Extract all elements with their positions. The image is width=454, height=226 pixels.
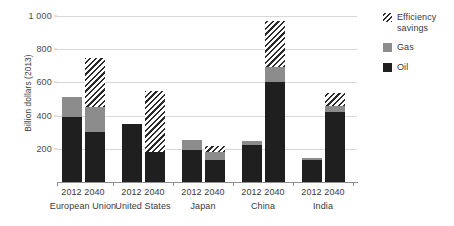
x-group-label: Japan [190,201,215,211]
x-tick-mark [173,182,174,186]
bar-india-2012 [302,158,322,182]
chart-legend: Efficiency savingsGasOil [383,12,454,82]
bar-india-2040 [325,93,345,182]
y-tick-mark [54,148,57,149]
bar-united-states-2012 [122,124,142,182]
x-year-label: 2040 [324,187,344,197]
bar-segment-gas [265,67,285,82]
y-tick-label: 400 [36,111,52,121]
bar-european-union-2040 [85,58,105,183]
bar-segment-efficiency-savings [205,146,225,153]
bar-segment-gas [302,158,322,160]
bar-japan-2012 [182,140,202,182]
grid-line [57,16,357,17]
x-tick-mark [113,182,114,186]
bar-segment-oil [242,145,262,182]
bar-segment-oil [145,152,165,182]
x-group-label: India [313,201,333,211]
bar-segment-gas [242,141,262,145]
y-tick-label: 1 000 [28,11,52,21]
x-year-label: 2012 [61,187,81,197]
plot-area: 1 000800600400200 [57,16,357,182]
x-year-label: 2012 [241,187,261,197]
x-year-label: 2012 [121,187,141,197]
y-tick-mark [54,16,57,17]
legend-swatch-gas-icon [383,43,392,52]
y-tick-label: 200 [36,144,52,154]
x-year-label: 2012 [181,187,201,197]
legend-label: Oil [397,62,454,73]
legend-item: Gas [383,42,454,53]
bar-segment-gas [205,152,225,160]
y-axis-title: Billion dollars (2013) [23,13,33,173]
legend-swatch-oil-icon [383,63,392,72]
x-tick-mark [233,182,234,186]
bar-segment-oil [205,160,225,182]
bar-segment-oil [85,132,105,182]
bar-china-2012 [242,141,262,183]
x-year-label: 2040 [264,187,284,197]
bar-segment-oil [182,150,202,182]
bar-segment-efficiency-savings [85,58,105,108]
bar-segment-gas [182,140,202,150]
x-year-label: 2040 [84,187,104,197]
grid-line [57,49,357,50]
bar-segment-oil [122,124,142,182]
x-group-label: United States [115,201,170,211]
y-tick-label: 800 [36,44,52,54]
bar-japan-2040 [205,145,225,182]
stacked-bar-chart: Billion dollars (2013) 1 000800600400200… [0,0,454,226]
bar-segment-gas [85,107,105,132]
bar-segment-efficiency-savings [325,93,345,105]
bar-segment-oil [302,160,322,182]
y-tick-label: 600 [36,77,52,87]
bar-segment-oil [325,112,345,182]
x-axis-line [57,182,358,183]
legend-item: Oil [383,62,454,73]
x-tick-mark [57,182,58,186]
legend-label: Gas [397,42,454,53]
y-tick-mark [54,115,57,116]
x-tick-mark [293,182,294,186]
bar-china-2040 [265,21,285,182]
legend-label: Efficiency savings [397,12,454,33]
x-year-label: 2040 [144,187,164,197]
y-tick-mark [54,82,57,83]
legend-swatch-eff-icon [383,13,392,22]
legend-item: Efficiency savings [383,12,454,33]
bar-european-union-2012 [62,97,82,182]
bar-united-states-2040 [145,91,165,182]
bar-segment-oil [265,82,285,182]
x-year-label: 2040 [204,187,224,197]
bar-segment-gas [325,106,345,113]
bar-segment-gas [62,97,82,117]
bar-segment-oil [62,117,82,182]
x-group-label: European Union [50,201,116,211]
x-tick-mark [353,182,354,186]
x-group-label: China [251,201,275,211]
bar-segment-efficiency-savings [265,21,285,67]
y-tick-mark [54,49,57,50]
x-year-label: 2012 [301,187,321,197]
bar-segment-efficiency-savings [145,91,165,152]
